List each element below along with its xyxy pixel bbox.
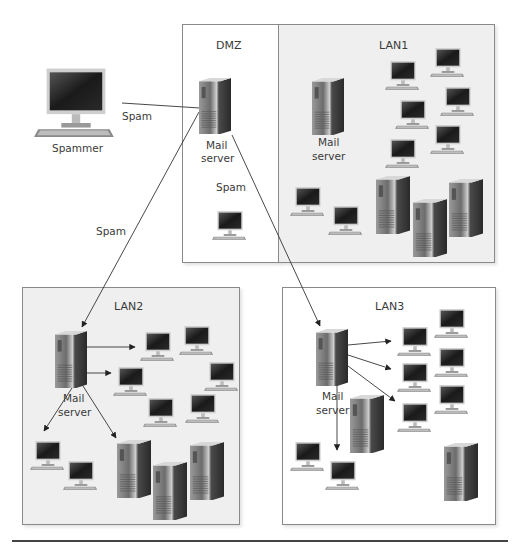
- lan1-workstation-icon: [395, 99, 431, 131]
- lan2-tower-icon: [153, 462, 187, 520]
- lan2-workstation-icon: [185, 393, 221, 425]
- lan3-mail-server-label-1: Mail: [322, 389, 343, 403]
- lan3-workstation-icon: [397, 402, 433, 434]
- lan3-workstation-icon: [397, 362, 433, 394]
- spammer-label: Spammer: [52, 141, 103, 155]
- lan1-mail-server-icon: [312, 78, 344, 135]
- dmz-to-lan2-spam-label: Spam: [96, 224, 126, 238]
- lan3-mail-server-label-2: server: [316, 403, 349, 417]
- dmz-workstation-icon: [212, 210, 248, 242]
- spammer-computer-icon: [34, 66, 118, 142]
- lan1-workstation-icon: [385, 60, 421, 92]
- lan2-workstation-icon: [140, 331, 176, 363]
- lan2-tower-icon: [190, 442, 224, 500]
- lan2-workstation-icon: [143, 397, 179, 429]
- lan3-workstation-icon: [290, 441, 326, 473]
- lan1-tower-icon: [413, 199, 447, 257]
- lan3-mail-server-icon: [316, 329, 348, 386]
- lan1-workstation-icon: [385, 138, 421, 170]
- lan1-workstation-icon: [328, 205, 364, 237]
- lan1-workstation-icon: [430, 47, 466, 79]
- lan1-mail-server-label-1: Mail: [318, 135, 339, 149]
- dmz-spam-label: Spam: [216, 180, 246, 194]
- lan3-tower-icon: [444, 443, 478, 501]
- dmz-mail-server-icon: [199, 78, 231, 134]
- lan2-workstation-icon: [179, 325, 215, 357]
- lan1-tower-icon: [449, 179, 483, 237]
- dmz-mail-server-label-2: server: [201, 151, 234, 165]
- lan3-workstation-icon: [325, 460, 361, 492]
- lan3-workstation-icon: [397, 326, 433, 358]
- lan2-tower-icon: [117, 440, 151, 498]
- lan1-mail-server-label-2: server: [312, 149, 345, 163]
- lan3-workstation-icon: [434, 384, 470, 416]
- lan1-workstation-icon: [290, 186, 326, 218]
- lan2-mail-server-label-1: Mail: [63, 391, 84, 405]
- spammer-to-dmz-line: [122, 103, 200, 108]
- lan2-workstation-icon: [113, 366, 149, 398]
- lan1-workstation-icon: [440, 86, 476, 118]
- lan2-workstation-icon: [30, 440, 66, 472]
- spam-edge-label: Spam: [122, 109, 152, 123]
- lan1-workstation-icon: [430, 124, 466, 156]
- dmz-mail-server-label-1: Mail: [206, 138, 227, 152]
- lan1-tower-icon: [376, 176, 410, 234]
- lan2-mail-server-icon: [55, 331, 87, 388]
- lan3-workstation-icon: [434, 347, 470, 379]
- lan2-workstation-icon: [204, 361, 240, 393]
- lan2-workstation-icon: [63, 460, 99, 492]
- lan2-mail-server-label-2: server: [58, 405, 91, 419]
- caption-divider: [12, 540, 508, 542]
- lan3-tower-icon: [350, 395, 384, 453]
- lan3-workstation-icon: [434, 308, 470, 340]
